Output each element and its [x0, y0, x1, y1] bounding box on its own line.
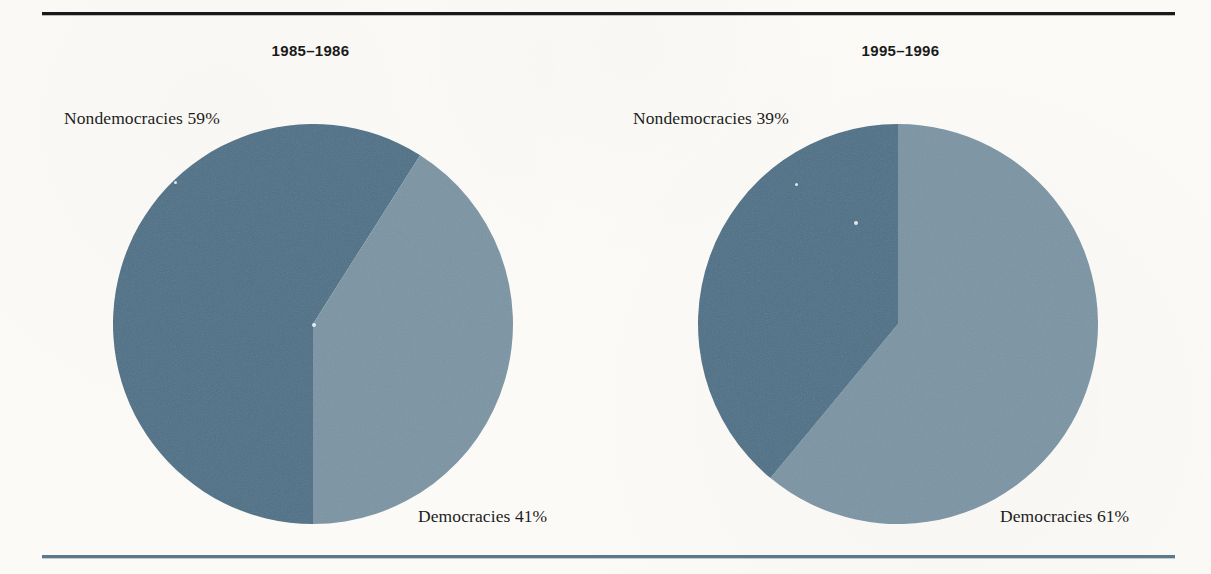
- label-nondemocracies-1985: Nondemocracies 59%: [64, 108, 220, 129]
- pie-svg-1985-1986: [112, 123, 514, 525]
- pie-svg-1995-1996: [697, 123, 1099, 525]
- label-democracies-1995: Democracies 61%: [1000, 506, 1129, 527]
- bottom-rule: [42, 555, 1175, 558]
- label-democracies-1985: Democracies 41%: [418, 506, 547, 527]
- chart-panel-1995-1996: 1995–1996: [585, 0, 1190, 574]
- pie-chart-1995-1996: [697, 123, 1099, 525]
- panel-title-1985-1986: 1985–1986: [8, 42, 613, 59]
- label-nondemocracies-1995: Nondemocracies 39%: [633, 108, 789, 129]
- pie-chart-1985-1986: [112, 123, 514, 525]
- chart-panel-1985-1986: 1985–1986: [0, 0, 605, 574]
- figure-root: 1985–1986: [0, 0, 1211, 574]
- panel-title-1995-1996: 1995–1996: [598, 42, 1203, 59]
